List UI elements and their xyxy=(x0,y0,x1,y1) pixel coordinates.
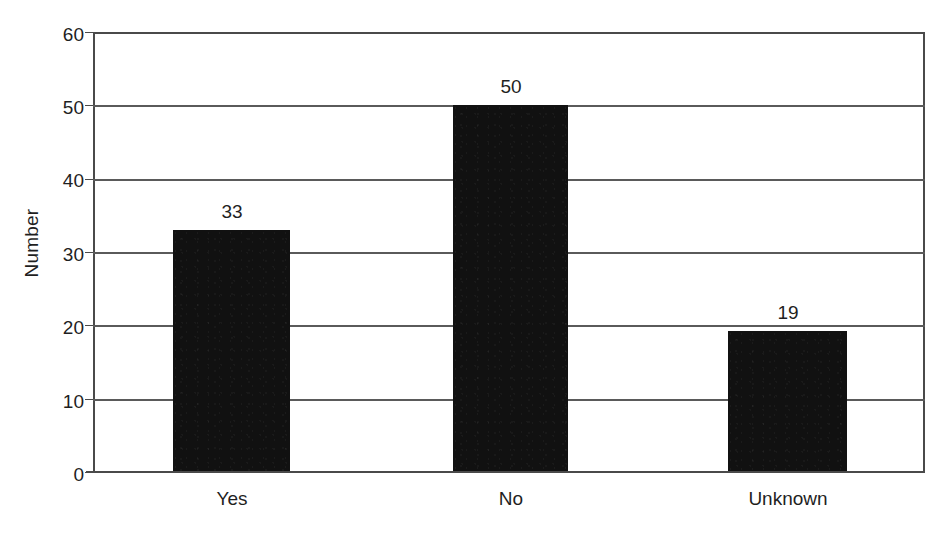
bar-value-unknown: 19 xyxy=(728,303,848,322)
y-tick-label-60: 60 xyxy=(38,25,84,44)
x-tick-label-no: No xyxy=(411,489,611,508)
x-tick-label-unknown: Unknown xyxy=(688,489,888,508)
y-tick-label-20: 20 xyxy=(38,318,84,337)
bar-yes xyxy=(173,230,290,471)
bar-value-yes: 33 xyxy=(172,202,292,221)
bar-unknown xyxy=(728,331,847,471)
y-tick-label-30: 30 xyxy=(38,245,84,264)
y-axis-title: Number xyxy=(21,173,43,313)
plot-area xyxy=(93,32,925,472)
y-tick-label-0: 0 xyxy=(38,465,84,484)
bar-chart: Number 60 50 40 30 20 10 0 33 50 19 Yes … xyxy=(0,0,951,533)
plot-border-top xyxy=(93,32,925,34)
bar-value-no: 50 xyxy=(451,77,571,96)
x-axis-origin-stub xyxy=(86,471,94,473)
y-tick-label-10: 10 xyxy=(38,392,84,411)
bar-no xyxy=(453,105,568,471)
x-axis-line xyxy=(93,471,925,473)
x-tick-label-yes: Yes xyxy=(132,489,332,508)
y-tick-label-50: 50 xyxy=(38,98,84,117)
y-tick-label-40: 40 xyxy=(38,171,84,190)
